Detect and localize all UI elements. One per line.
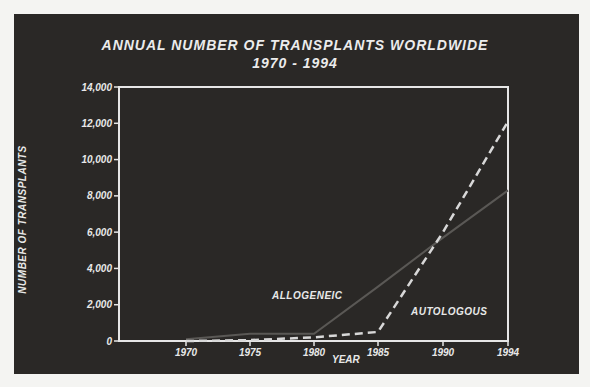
y-tick-label: 8,000 [87, 190, 112, 201]
series-line-allogeneic [186, 190, 508, 339]
y-tick-label: 4,000 [86, 263, 112, 274]
x-tick-label: 1970 [175, 347, 198, 358]
x-tick-label: 1990 [432, 347, 455, 358]
y-tick-label: 14,000 [81, 82, 112, 93]
y-tick-label: 10,000 [81, 154, 112, 165]
x-tick-label: 1980 [303, 347, 326, 358]
plot-area: 02,0004,0006,0008,00010,00012,00014,0001… [0, 0, 590, 387]
x-tick-label: 1994 [497, 347, 520, 358]
y-tick-label: 2,000 [86, 299, 112, 310]
y-tick-label: 0 [106, 336, 112, 347]
x-tick-label: 1985 [367, 347, 390, 358]
plot-frame [119, 87, 508, 341]
y-tick-label: 12,000 [81, 118, 112, 129]
series-line-autologous [186, 121, 508, 341]
x-tick-label: 1975 [239, 347, 262, 358]
y-tick-label: 6,000 [87, 227, 112, 238]
